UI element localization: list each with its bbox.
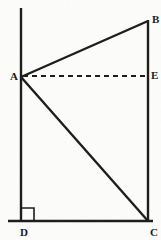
- geometry-canvas: [0, 0, 161, 240]
- segment-segment-AB: [21, 21, 148, 77]
- vertex-label-b: B: [152, 14, 159, 25]
- geometry-figure: ABECD: [0, 0, 161, 240]
- vertex-label-d: D: [20, 227, 28, 238]
- vertex-label-c: C: [150, 227, 158, 238]
- segments-group: [8, 8, 153, 222]
- vertex-label-a: A: [10, 71, 18, 82]
- right-angle-marker-group: [21, 208, 34, 221]
- segment-segment-AC: [21, 77, 148, 221]
- right-angle-marker: [21, 208, 34, 221]
- vertex-label-e: E: [151, 70, 158, 81]
